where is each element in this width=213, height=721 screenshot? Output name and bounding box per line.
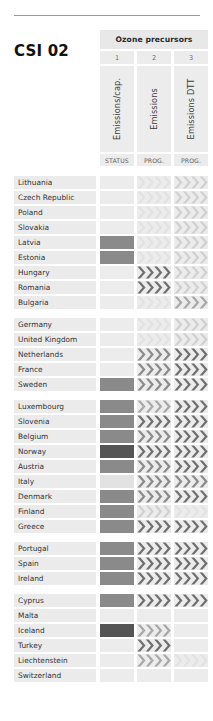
- progress-cell-emissions-dtt[interactable]: [174, 475, 208, 488]
- progress-cell-emissions-dtt[interactable]: [174, 348, 208, 361]
- progress-cell-emissions[interactable]: [137, 624, 171, 637]
- progress-cell-emissions[interactable]: [137, 296, 171, 309]
- progress-cell-emissions-dtt[interactable]: [174, 266, 208, 279]
- table-row[interactable]: Germany: [0, 318, 213, 333]
- status-cell[interactable]: [100, 333, 134, 346]
- status-cell[interactable]: [100, 400, 134, 413]
- progress-cell-emissions-dtt[interactable]: [174, 624, 208, 637]
- status-cell[interactable]: [100, 281, 134, 294]
- table-row[interactable]: Bulgaria: [0, 296, 213, 311]
- status-cell[interactable]: [100, 572, 134, 585]
- table-row[interactable]: Sweden: [0, 378, 213, 393]
- progress-cell-emissions-dtt[interactable]: [174, 654, 208, 667]
- progress-cell-emissions[interactable]: [137, 490, 171, 503]
- progress-cell-emissions[interactable]: [137, 594, 171, 607]
- progress-cell-emissions-dtt[interactable]: [174, 505, 208, 518]
- status-cell[interactable]: [100, 445, 134, 458]
- progress-cell-emissions[interactable]: [137, 430, 171, 443]
- status-cell[interactable]: [100, 415, 134, 428]
- table-row[interactable]: Romania: [0, 281, 213, 296]
- progress-cell-emissions[interactable]: [137, 191, 171, 204]
- status-cell[interactable]: [100, 251, 134, 264]
- status-cell[interactable]: [100, 669, 134, 682]
- table-row[interactable]: United Kingdom: [0, 333, 213, 348]
- progress-cell-emissions[interactable]: [137, 639, 171, 652]
- status-cell[interactable]: [100, 430, 134, 443]
- progress-cell-emissions[interactable]: [137, 221, 171, 234]
- progress-cell-emissions-dtt[interactable]: [174, 639, 208, 652]
- progress-cell-emissions-dtt[interactable]: [174, 221, 208, 234]
- progress-cell-emissions[interactable]: [137, 520, 171, 533]
- table-row[interactable]: Poland: [0, 206, 213, 221]
- progress-cell-emissions-dtt[interactable]: [174, 490, 208, 503]
- table-row[interactable]: Liechtenstein: [0, 654, 213, 669]
- table-row[interactable]: Switzerland: [0, 669, 213, 684]
- status-cell[interactable]: [100, 348, 134, 361]
- progress-cell-emissions[interactable]: [137, 318, 171, 331]
- progress-cell-emissions[interactable]: [137, 542, 171, 555]
- table-row[interactable]: Czech Republic: [0, 191, 213, 206]
- table-row[interactable]: France: [0, 363, 213, 378]
- progress-cell-emissions-dtt[interactable]: [174, 236, 208, 249]
- progress-cell-emissions-dtt[interactable]: [174, 378, 208, 391]
- status-cell[interactable]: [100, 236, 134, 249]
- progress-cell-emissions-dtt[interactable]: [174, 542, 208, 555]
- progress-cell-emissions-dtt[interactable]: [174, 363, 208, 376]
- status-cell[interactable]: [100, 296, 134, 309]
- progress-cell-emissions[interactable]: [137, 363, 171, 376]
- progress-cell-emissions[interactable]: [137, 206, 171, 219]
- status-cell[interactable]: [100, 490, 134, 503]
- progress-cell-emissions[interactable]: [137, 236, 171, 249]
- progress-cell-emissions-dtt[interactable]: [174, 609, 208, 622]
- progress-cell-emissions-dtt[interactable]: [174, 318, 208, 331]
- status-cell[interactable]: [100, 639, 134, 652]
- progress-cell-emissions-dtt[interactable]: [174, 557, 208, 570]
- progress-cell-emissions[interactable]: [137, 475, 171, 488]
- table-row[interactable]: Austria: [0, 460, 213, 475]
- table-row[interactable]: Netherlands: [0, 348, 213, 363]
- progress-cell-emissions[interactable]: [137, 348, 171, 361]
- table-row[interactable]: Ireland: [0, 572, 213, 587]
- progress-cell-emissions-dtt[interactable]: [174, 333, 208, 346]
- progress-cell-emissions[interactable]: [137, 572, 171, 585]
- status-cell[interactable]: [100, 609, 134, 622]
- status-cell[interactable]: [100, 557, 134, 570]
- status-cell[interactable]: [100, 191, 134, 204]
- table-row[interactable]: Iceland: [0, 624, 213, 639]
- progress-cell-emissions-dtt[interactable]: [174, 296, 208, 309]
- progress-cell-emissions[interactable]: [137, 400, 171, 413]
- table-row[interactable]: Belgium: [0, 430, 213, 445]
- progress-cell-emissions[interactable]: [137, 333, 171, 346]
- progress-cell-emissions-dtt[interactable]: [174, 669, 208, 682]
- progress-cell-emissions-dtt[interactable]: [174, 460, 208, 473]
- progress-cell-emissions[interactable]: [137, 609, 171, 622]
- table-row[interactable]: Luxembourg: [0, 400, 213, 415]
- progress-cell-emissions-dtt[interactable]: [174, 520, 208, 533]
- table-row[interactable]: Slovakia: [0, 221, 213, 236]
- progress-cell-emissions-dtt[interactable]: [174, 176, 208, 189]
- status-cell[interactable]: [100, 378, 134, 391]
- progress-cell-emissions[interactable]: [137, 251, 171, 264]
- progress-cell-emissions[interactable]: [137, 415, 171, 428]
- progress-cell-emissions-dtt[interactable]: [174, 430, 208, 443]
- status-cell[interactable]: [100, 176, 134, 189]
- table-row[interactable]: Cyprus: [0, 594, 213, 609]
- table-row[interactable]: Turkey: [0, 639, 213, 654]
- table-row[interactable]: Estonia: [0, 251, 213, 266]
- table-row[interactable]: Denmark: [0, 490, 213, 505]
- table-row[interactable]: Spain: [0, 557, 213, 572]
- table-row[interactable]: Slovenia: [0, 415, 213, 430]
- status-cell[interactable]: [100, 206, 134, 219]
- status-cell[interactable]: [100, 520, 134, 533]
- table-row[interactable]: Portugal: [0, 542, 213, 557]
- progress-cell-emissions[interactable]: [137, 281, 171, 294]
- progress-cell-emissions[interactable]: [137, 266, 171, 279]
- table-row[interactable]: Latvia: [0, 236, 213, 251]
- progress-cell-emissions-dtt[interactable]: [174, 572, 208, 585]
- progress-cell-emissions-dtt[interactable]: [174, 191, 208, 204]
- progress-cell-emissions[interactable]: [137, 445, 171, 458]
- status-cell[interactable]: [100, 475, 134, 488]
- progress-cell-emissions-dtt[interactable]: [174, 206, 208, 219]
- status-cell[interactable]: [100, 594, 134, 607]
- status-cell[interactable]: [100, 654, 134, 667]
